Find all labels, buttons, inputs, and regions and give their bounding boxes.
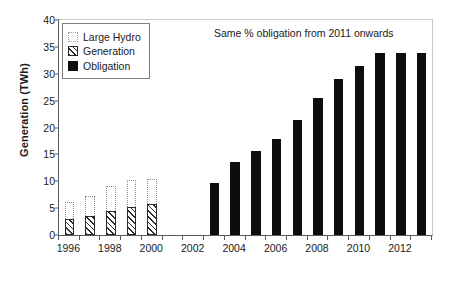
- bar-obligation: [396, 53, 406, 235]
- bar-group-2011: [370, 20, 391, 235]
- x-axis-tick-mark: [390, 236, 391, 240]
- y-axis-tick-label: 25: [43, 95, 55, 107]
- bar-group-2007: [287, 20, 308, 235]
- legend-item-generation: Generation: [68, 45, 141, 57]
- y-axis-tick-mark: [55, 208, 59, 209]
- x-axis-tick-mark: [203, 236, 204, 240]
- bar-large-hydro: [106, 186, 116, 212]
- bar-group-2010: [349, 20, 370, 235]
- y-axis-tick-label: 35: [43, 41, 55, 53]
- bar-group-2013: [411, 20, 432, 235]
- x-axis-tick-mark: [99, 236, 100, 240]
- x-axis-tick-label: 2006: [264, 242, 287, 254]
- y-axis-tick-mark: [55, 46, 59, 47]
- bar-group-2012: [391, 20, 412, 235]
- bar-obligation: [375, 53, 385, 235]
- bar-generation: [106, 211, 116, 235]
- solid-black-swatch-icon: [68, 61, 78, 71]
- y-axis-tick-label: 40: [43, 14, 55, 26]
- x-axis-tick-mark: [162, 236, 163, 240]
- y-axis-tick-label: 10: [43, 175, 55, 187]
- bar-large-hydro: [85, 196, 95, 215]
- bar-large-hydro: [127, 180, 137, 207]
- y-axis-tick-label: 15: [43, 148, 55, 160]
- x-axis-tick-mark: [348, 236, 349, 240]
- legend-label: Generation: [83, 45, 135, 57]
- bar-large-hydro: [65, 202, 75, 219]
- x-axis-tick-mark: [141, 236, 142, 240]
- x-axis-tick-mark: [245, 236, 246, 240]
- x-axis-tick-label: 2004: [222, 242, 245, 254]
- bar-group-2004: [225, 20, 246, 235]
- y-axis-tick-mark: [55, 73, 59, 74]
- x-axis-tick-label: 1998: [98, 242, 121, 254]
- x-axis-tick-label: 1996: [57, 242, 80, 254]
- y-axis-title: Generation (TWh): [18, 40, 30, 180]
- bar-obligation: [313, 98, 323, 235]
- x-axis-tick-mark: [410, 236, 411, 240]
- x-axis-tick-mark: [120, 236, 121, 240]
- bar-group-2005: [245, 20, 266, 235]
- bar-obligation: [293, 120, 303, 235]
- y-axis-tick-label: 20: [43, 122, 55, 134]
- bar-generation: [85, 216, 95, 235]
- bar-generation: [147, 204, 157, 235]
- y-axis-tick-mark: [55, 20, 59, 21]
- x-axis-tick-mark: [224, 236, 225, 240]
- bar-obligation: [210, 183, 220, 235]
- bar-group-2008: [308, 20, 329, 235]
- legend: Large Hydro Generation Obligation: [62, 23, 150, 79]
- hatched-swatch-icon: [68, 46, 78, 56]
- bar-obligation: [355, 66, 365, 235]
- bar-obligation: [417, 53, 427, 235]
- x-axis-tick-mark: [307, 236, 308, 240]
- bar-group-2009: [328, 20, 349, 235]
- x-axis-tick-mark: [286, 236, 287, 240]
- y-axis-tick-mark: [55, 100, 59, 101]
- legend-label: Large Hydro: [83, 31, 141, 43]
- bar-group-2002: [183, 20, 204, 235]
- x-axis-tick-mark: [79, 236, 80, 240]
- bar-obligation: [272, 139, 282, 235]
- bar-obligation: [251, 151, 261, 235]
- x-axis-tick-mark: [327, 236, 328, 240]
- x-axis-tick-label: 2002: [181, 242, 204, 254]
- x-axis-tick-mark: [431, 236, 432, 240]
- x-axis-tick-mark: [265, 236, 266, 240]
- bar-group-2001: [163, 20, 184, 235]
- bar-obligation: [230, 162, 240, 235]
- legend-item-large-hydro: Large Hydro: [68, 31, 141, 43]
- bar-group-2006: [266, 20, 287, 235]
- y-axis-tick-mark: [55, 127, 59, 128]
- x-axis-tick-label: 2000: [140, 242, 163, 254]
- x-axis-tick-mark: [182, 236, 183, 240]
- y-axis-tick-label: 30: [43, 68, 55, 80]
- bar-group-2003: [204, 20, 225, 235]
- x-axis: 199619982000200220042006200820102012: [58, 236, 433, 266]
- x-axis-tick-label: 2012: [388, 242, 411, 254]
- bar-generation: [65, 219, 75, 235]
- x-axis-tick-mark: [58, 236, 59, 240]
- y-axis-tick-mark: [55, 154, 59, 155]
- x-axis-tick-label: 2008: [305, 242, 328, 254]
- bar-generation: [127, 207, 137, 235]
- legend-item-obligation: Obligation: [68, 60, 141, 72]
- y-axis-tick-mark: [55, 181, 59, 182]
- bar-chart: Generation (TWh) 0510152025303540 199619…: [0, 0, 453, 281]
- bar-large-hydro: [147, 179, 157, 204]
- x-axis-tick-label: 2010: [347, 242, 370, 254]
- legend-label: Obligation: [83, 60, 130, 72]
- chart-annotation: Same % obligation from 2011 onwards: [214, 27, 394, 39]
- x-axis-tick-mark: [369, 236, 370, 240]
- dotted-outline-swatch-icon: [68, 32, 78, 42]
- bar-obligation: [334, 79, 344, 235]
